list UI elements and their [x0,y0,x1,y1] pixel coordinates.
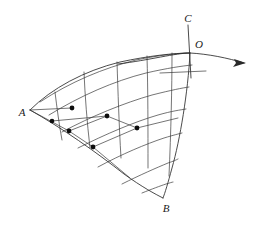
chord-A-to-n3 [30,110,69,131]
arc-A-to-O-top [30,53,190,110]
chord-n5-down [93,147,130,178]
node-4 [105,114,110,119]
node-6 [135,126,140,131]
vertex-label-b: B [163,202,170,214]
arc-level-7 [142,182,173,193]
radial-3 [117,62,121,158]
node-1 [50,119,55,124]
chord-n3-to-n5 [69,131,93,147]
arc-level-3 [62,87,189,132]
geometry-diagram: ABCO [0,0,258,230]
vertex-label-a: A [18,106,26,118]
vertex-labels: ABCO [18,12,203,214]
interior-chord [160,71,206,73]
arrow-head-icon [233,59,246,67]
node-3 [67,129,72,134]
chord-A-to-n2 [30,108,72,110]
interior-chord [160,71,206,73]
node-5 [91,145,96,150]
vertex-label-c: C [184,12,192,24]
arc-A-to-B-bottom [30,110,163,198]
chord-segments [30,108,178,178]
arc-level-4 [78,109,186,148]
chord-n1-to-n4 [52,116,107,121]
node-2 [70,106,75,111]
chord-n4-to-n6 [107,116,137,128]
arc-O-to-B-right [163,53,190,198]
radial-1 [55,92,62,140]
figure-root: ABCO [0,0,258,230]
radial-2 [84,72,90,148]
radial-5 [169,53,172,176]
arc-level-1 [40,53,190,102]
vertex-label-o: O [195,38,203,50]
boundary-curves [30,53,190,198]
